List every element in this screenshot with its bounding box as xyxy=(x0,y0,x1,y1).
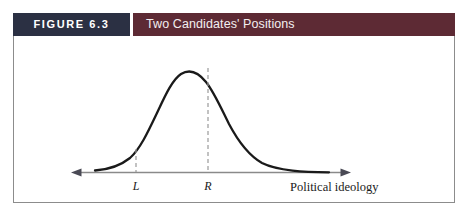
figure-header-bar: FIGURE 6.3 Two Candidates' Positions xyxy=(13,13,455,36)
figure-number-block: FIGURE 6.3 xyxy=(13,13,130,36)
figure-title-label: Two Candidates' Positions xyxy=(146,18,295,31)
plot-frame xyxy=(13,36,455,203)
figure-container: FIGURE 6.3 Two Candidates' Positions L R… xyxy=(0,0,473,218)
figure-number-label: FIGURE 6.3 xyxy=(34,19,110,30)
figure-title-block: Two Candidates' Positions xyxy=(133,13,455,36)
